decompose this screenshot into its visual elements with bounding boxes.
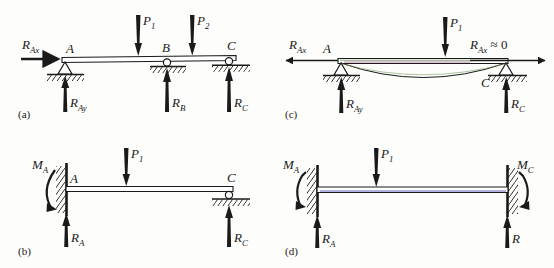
- panel-d-label-R: R: [512, 232, 520, 245]
- panel-c-label-P1: P1: [450, 16, 462, 32]
- panel-a-label-RAx: RAx: [22, 38, 39, 54]
- panel-b-load-P1-arrow: [123, 148, 130, 186]
- panel-a-beam: [62, 56, 236, 63]
- panel-c: [286, 17, 545, 113]
- panel-c-tag: (c): [285, 108, 297, 120]
- panel-b-beam: [66, 187, 233, 192]
- panel-d-label-RA: RA: [322, 232, 335, 248]
- panel-a-load-P2-arrow: [189, 15, 196, 56]
- panel-b-label-RC: RC: [234, 231, 248, 247]
- panel-a-label-node-A: A: [66, 42, 74, 55]
- panel-a-label-node-B: B: [162, 41, 170, 54]
- panel-d-tag: (d): [285, 245, 298, 257]
- panel-a-label-RAy: RAy: [70, 96, 87, 112]
- panel-c-label-RC: RC: [511, 97, 525, 113]
- panel-c-label-RAx-right: RAx ≈ 0: [470, 38, 507, 54]
- panel-b-fixed-support-A: [56, 163, 67, 216]
- panel-b-moment-MA-arc: [47, 170, 58, 212]
- panel-b-label-node-C: C: [227, 171, 236, 184]
- panel-d-label-P1: P1: [381, 147, 393, 163]
- panel-b-label-node-A: A: [70, 172, 78, 185]
- panel-a: [21, 15, 250, 112]
- panel-d-fixed-support-A: [307, 165, 318, 217]
- panel-d-label-MC: MC: [517, 158, 534, 174]
- panel-b-tag: (b): [18, 245, 31, 257]
- panel-b-reaction-RA-arrow: [62, 213, 70, 247]
- panel-a-label-P2: P2: [197, 14, 209, 30]
- panel-b-label-P1: P1: [131, 147, 143, 163]
- panel-c-label-RAy: RAy: [346, 97, 363, 113]
- panel-c-label-node-A: A: [323, 42, 331, 55]
- panel-b-reaction-RC-arrow: [225, 205, 233, 247]
- panel-a-label-node-C: C: [227, 39, 236, 52]
- panel-d-moment-MC-arc: [519, 172, 530, 210]
- panel-c-label-node-C: C: [481, 76, 490, 89]
- panel-a-reaction-RB-arrow: [163, 68, 171, 112]
- panel-c-load-P1-arrow: [442, 17, 449, 57]
- panel-b-label-RA: RA: [71, 231, 84, 247]
- panel-d-label-MA: MA: [283, 158, 299, 174]
- panel-a-label-RB: RB: [172, 96, 185, 112]
- panel-b-label-MA: MA: [32, 158, 48, 174]
- panel-d-moment-MA-arc: [296, 172, 307, 210]
- panel-c-label-RAx-left: RAx: [289, 38, 306, 54]
- panel-a-tag: (a): [18, 108, 30, 120]
- panel-c-pin-support-C: [488, 63, 527, 82]
- panel-d-beam: [317, 187, 508, 193]
- panel-d-reaction-R-arrow: [503, 215, 511, 248]
- panel-a-load-P1-arrow: [135, 15, 142, 56]
- panel-a-label-P1: P1: [143, 14, 155, 30]
- panel-d-reaction-RA-arrow: [313, 215, 321, 248]
- panel-b-roller-support-C: [212, 191, 250, 206]
- panel-a-label-RC: RC: [234, 96, 248, 112]
- panel-a-reaction-RAy-arrow: [61, 76, 69, 112]
- panel-a-reaction-RC-arrow: [225, 67, 233, 112]
- panel-d-load-P1-arrow: [373, 148, 380, 187]
- panel-c-reaction-RAy-arrow: [337, 77, 345, 113]
- panel-c-reaction-RC-arrow: [502, 77, 510, 113]
